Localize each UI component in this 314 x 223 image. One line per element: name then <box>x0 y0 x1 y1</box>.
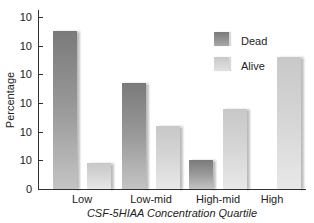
y-tick <box>38 17 43 18</box>
bar-dead-high-mid <box>189 160 213 189</box>
category-label: Low <box>72 193 92 205</box>
bar-alive-high-mid <box>223 109 247 189</box>
legend-label-alive: Alive <box>241 60 265 72</box>
y-tick-label: 10 <box>20 97 32 109</box>
bar-dead-low-mid <box>122 83 146 189</box>
y-tick-label: 10 <box>20 11 32 23</box>
y-axis-line <box>38 10 39 189</box>
y-axis-label: Percentage <box>4 72 16 128</box>
legend-swatch-alive <box>214 57 229 71</box>
bar-alive-low-mid <box>156 126 180 189</box>
legend-swatch-dead <box>214 32 229 46</box>
legend-label-dead: Dead <box>241 35 267 47</box>
category-label: High-mid <box>196 193 240 205</box>
y-tick <box>38 160 43 161</box>
category-label: High <box>261 193 284 205</box>
y-tick <box>38 132 43 133</box>
bar-dead-low <box>53 31 77 189</box>
y-tick <box>38 189 43 190</box>
y-tick <box>38 74 43 75</box>
y-tick-label: 10 <box>20 40 32 52</box>
category-label: Low-mid <box>130 193 172 205</box>
bar-chart: Percentage 0101010101010 LowLow-midHigh-… <box>0 0 314 223</box>
x-axis-label: CSF-5HIAA Concentration Quartile <box>87 207 257 219</box>
bar-alive-low <box>87 163 111 189</box>
y-tick <box>38 46 43 47</box>
y-tick-label: 0 <box>26 183 32 195</box>
bar-alive-high <box>277 57 301 189</box>
y-tick-label: 10 <box>20 126 32 138</box>
y-tick-label: 10 <box>20 68 32 80</box>
y-tick <box>38 103 43 104</box>
y-tick-label: 10 <box>20 154 32 166</box>
